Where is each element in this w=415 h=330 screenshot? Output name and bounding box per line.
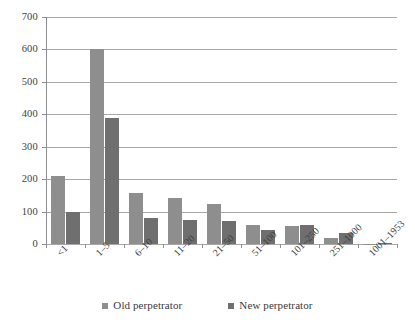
bar-group — [363, 17, 392, 244]
y-axis-tick-mark — [42, 212, 46, 213]
x-axis-tick-mark — [280, 244, 281, 248]
x-axis-tick-mark — [46, 244, 47, 248]
x-axis-tick-mark — [397, 244, 398, 248]
x-axis-tick-mark — [124, 244, 125, 248]
legend-label: New perpetrator — [239, 300, 312, 311]
bar-group — [246, 17, 275, 244]
legend-swatch-icon — [102, 303, 108, 309]
bar-group — [51, 17, 80, 244]
legend-item-old-perpetrator: Old perpetrator — [102, 300, 182, 311]
y-axis-tick-label: 400 — [22, 109, 38, 120]
y-axis-tick-label: 700 — [22, 12, 38, 23]
y-axis-tick-mark — [42, 49, 46, 50]
bar-old-perpetrator — [207, 204, 221, 244]
x-axis-tick-mark — [202, 244, 203, 248]
y-axis-tick-label: 600 — [22, 44, 38, 55]
bar-new-perpetrator — [66, 212, 80, 244]
y-axis-line — [46, 17, 47, 245]
bar-old-perpetrator — [90, 49, 104, 244]
bar-group — [129, 17, 158, 244]
bar-old-perpetrator — [51, 176, 65, 244]
y-axis-tick-label: 0 — [33, 239, 38, 250]
y-axis-tick-mark — [42, 179, 46, 180]
y-axis-tick-mark — [42, 82, 46, 83]
bar-group — [285, 17, 314, 244]
x-axis-tick-mark — [241, 244, 242, 248]
bar-group — [90, 17, 119, 244]
x-axis-category-label: <1 — [55, 243, 70, 258]
bar-new-perpetrator — [105, 118, 119, 244]
bar-old-perpetrator — [129, 193, 143, 244]
y-axis-tick-mark — [42, 17, 46, 18]
x-axis-tick-mark — [319, 244, 320, 248]
bar-group — [168, 17, 197, 244]
y-axis-tick-label: 300 — [22, 142, 38, 153]
bar-group — [324, 17, 353, 244]
y-axis-tick-mark — [42, 114, 46, 115]
legend-label: Old perpetrator — [113, 300, 182, 311]
x-axis-tick-mark — [163, 244, 164, 248]
legend-swatch-icon — [228, 303, 234, 309]
bar-old-perpetrator — [168, 198, 182, 244]
x-axis-tick-mark — [358, 244, 359, 248]
bar-group — [207, 17, 236, 244]
y-axis-tick-label: 100 — [22, 207, 38, 218]
y-axis-tick-mark — [42, 147, 46, 148]
y-axis-tick-label: 500 — [22, 77, 38, 88]
legend-item-new-perpetrator: New perpetrator — [228, 300, 312, 311]
chart-legend: Old perpetratorNew perpetrator — [0, 300, 415, 311]
x-axis-tick-mark — [85, 244, 86, 248]
y-axis-tick-label: 200 — [22, 174, 38, 185]
bar-chart: 0100200300400500600700 <11–56–1011–2021–… — [0, 0, 415, 330]
